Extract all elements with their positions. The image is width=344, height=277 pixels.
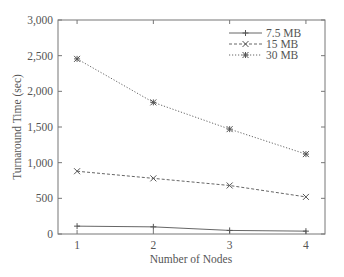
plus-marker-icon (243, 30, 249, 36)
y-tick-label: 3,000 (27, 14, 53, 27)
y-tick-label: 2,000 (27, 85, 53, 98)
star-marker-icon (243, 52, 249, 58)
x-marker-icon (243, 41, 249, 47)
x-marker-icon (303, 194, 309, 200)
star-marker-icon (74, 56, 80, 62)
x-axis-title: Number of Nodes (150, 253, 233, 265)
plus-marker-icon (74, 223, 80, 229)
line-chart: 05001,0001,5002,0002,5003,000 1234 7.5 M… (0, 0, 344, 277)
star-marker-icon (227, 126, 233, 132)
legend-label: 30 MB (266, 49, 299, 61)
series-lines (74, 56, 309, 234)
y-tick-label: 500 (36, 192, 54, 204)
plus-marker-icon (227, 227, 233, 233)
y-tick-label: 1,000 (27, 157, 53, 170)
series-7-5-mb (74, 223, 309, 234)
star-marker-icon (150, 99, 156, 105)
x-tick-label: 3 (227, 239, 233, 251)
legend: 7.5 MB15 MB30 MB (229, 27, 301, 61)
plus-marker-icon (303, 228, 309, 234)
y-tick-label: 0 (47, 228, 53, 240)
y-tick-label: 2,500 (27, 50, 53, 63)
y-axis-title: Turnaround Time (sec) (11, 74, 24, 180)
y-tick-label: 1,500 (27, 121, 53, 134)
x-tick-label: 2 (150, 239, 156, 251)
x-marker-icon (150, 175, 156, 181)
star-marker-icon (303, 151, 309, 157)
legend-item: 30 MB (229, 49, 299, 61)
plus-marker-icon (150, 224, 156, 230)
series-15-mb (74, 168, 309, 200)
x-tick-label: 1 (74, 239, 80, 251)
x-tick-label: 4 (303, 239, 309, 251)
series-30-mb (74, 56, 309, 157)
